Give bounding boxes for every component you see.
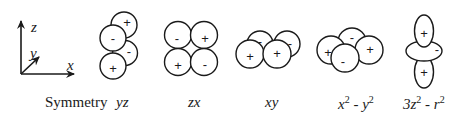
sign-plus: + xyxy=(174,58,182,73)
sign-plus: + xyxy=(420,26,428,41)
sign-minus: - xyxy=(350,30,354,45)
sign-minus: - xyxy=(435,42,439,57)
orbital-xy: - - + + xyxy=(236,31,300,68)
orbital-zx: - + + - xyxy=(165,22,218,76)
sign-minus: - xyxy=(203,57,207,72)
caption-x2-y2: x2 - y2 xyxy=(338,94,374,113)
caption-zx: zx xyxy=(188,94,201,111)
sign-minus: - xyxy=(175,31,179,46)
orbital-x2-y2: - + + - xyxy=(317,28,383,72)
sign-plus: + xyxy=(109,61,117,76)
z-axis-label: z xyxy=(30,19,37,35)
symmetry-row-label: Symmetry xyxy=(45,94,108,111)
sign-plus: + xyxy=(201,31,209,46)
orbital-yz: + - - + xyxy=(100,12,138,79)
caption-yz-text: yz xyxy=(116,94,129,110)
caption-xy-text: xy xyxy=(265,94,278,110)
sign-plus: + xyxy=(366,42,374,57)
caption-exponent: 2 xyxy=(369,94,374,105)
sign-minus: - xyxy=(127,44,131,59)
sign-minus: + xyxy=(273,46,281,61)
caption-part: 3z xyxy=(403,96,416,112)
sign-minus: - xyxy=(341,54,345,69)
sign-plus: + xyxy=(123,15,131,30)
sign-plus: + xyxy=(246,49,254,64)
caption-part: - y xyxy=(350,96,369,112)
sign-plus: + xyxy=(420,65,428,80)
caption-part: - r xyxy=(421,96,439,112)
x-axis-label: x xyxy=(66,57,74,73)
caption-3z2-r2: 3z2 - r2 xyxy=(403,94,445,113)
caption-exponent: 2 xyxy=(440,94,445,105)
y-axis-label: y xyxy=(28,45,37,61)
sign-minus: - xyxy=(111,31,115,46)
caption-yz: yz xyxy=(116,94,129,111)
caption-zx-text: zx xyxy=(188,94,201,110)
coordinate-axes: z y x xyxy=(21,19,74,74)
caption-xy: xy xyxy=(265,94,278,111)
caption-part: x xyxy=(338,96,345,112)
orbital-3z2-r2: + - + xyxy=(406,15,442,88)
